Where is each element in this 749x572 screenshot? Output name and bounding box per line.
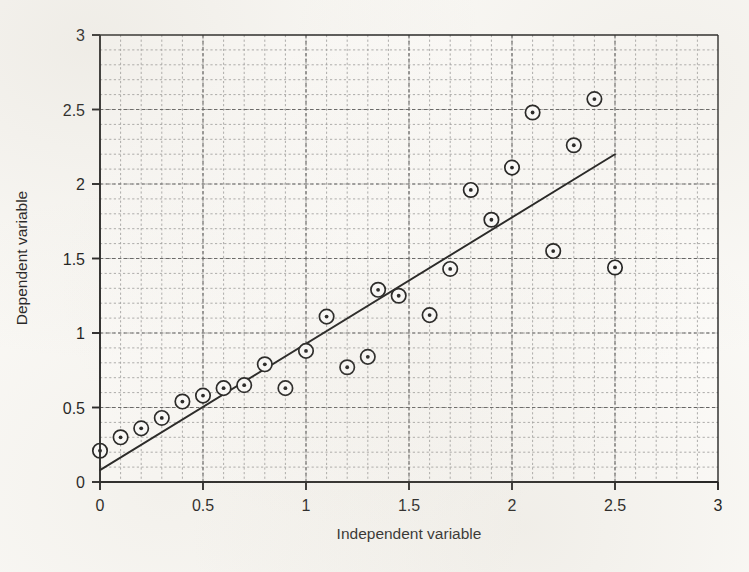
x-tick-label: 1.5 — [398, 497, 420, 514]
y-tick-label: 1 — [76, 325, 85, 342]
y-tick-label: 1.5 — [63, 251, 85, 268]
x-tick-label: 0 — [96, 497, 105, 514]
y-axis-title: Dependent variable — [13, 191, 30, 325]
scatter-plot-figure: 00.511.522.53 00.511.522.53 Independent … — [0, 0, 749, 572]
x-axis-title: Independent variable — [337, 525, 482, 542]
y-axis-tick-labels: 00.511.522.53 — [63, 27, 85, 491]
x-tick-label: 3 — [714, 497, 723, 514]
y-tick-label: 0 — [76, 474, 85, 491]
x-axis-tick-labels: 00.511.522.53 — [96, 497, 723, 514]
x-tick-label: 1 — [302, 497, 311, 514]
y-axis-ticks — [92, 35, 100, 482]
x-axis-ticks — [100, 482, 718, 490]
x-tick-label: 2.5 — [604, 497, 626, 514]
y-tick-label: 3 — [76, 27, 85, 44]
y-tick-label: 2 — [76, 176, 85, 193]
x-tick-label: 2 — [508, 497, 517, 514]
y-tick-label: 0.5 — [63, 400, 85, 417]
y-tick-label: 2.5 — [63, 102, 85, 119]
x-tick-label: 0.5 — [192, 497, 214, 514]
chart-canvas: 00.511.522.53 00.511.522.53 Independent … — [0, 0, 749, 572]
